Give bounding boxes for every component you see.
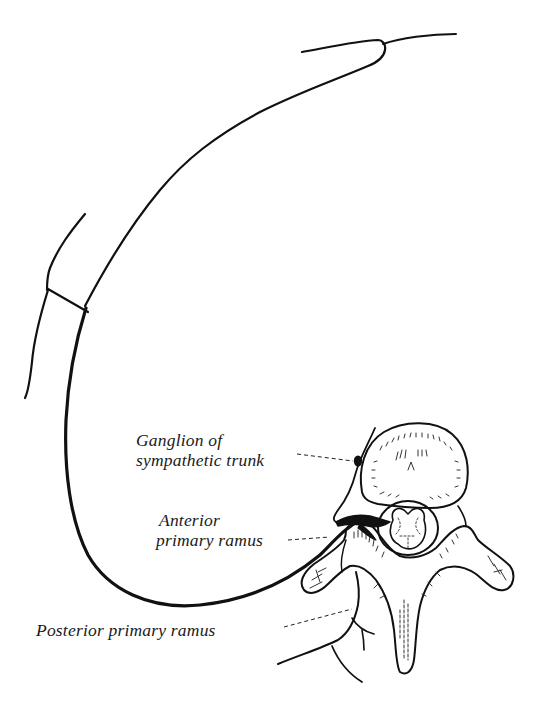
vertebral-body <box>361 423 468 508</box>
vertebral-body-hatching <box>372 433 460 499</box>
upper-right-line <box>383 34 456 44</box>
anatomy-figure: Ganglion of sympathetic trunk Anterior p… <box>0 0 542 703</box>
posterior-ramus-branch-3 <box>362 630 364 650</box>
label-posterior-line1: Posterior primary ramus <box>36 620 216 640</box>
leader-posterior <box>284 609 352 627</box>
spinal-nerve-root <box>336 515 390 527</box>
posterior-ramus-branch-1 <box>332 646 362 682</box>
leader-ganglion <box>297 454 353 461</box>
spinal-cord-grey-matter <box>396 518 420 548</box>
posterior-ramus-dorsal-branch <box>341 540 346 572</box>
upper-body-wall-outline <box>85 40 385 306</box>
label-posterior-primary-ramus: Posterior primary ramus <box>36 620 216 640</box>
sympathetic-trunk-line <box>334 428 375 522</box>
intercostal-connector <box>48 289 88 312</box>
label-anterior-primary-ramus: Anterior primary ramus <box>156 510 263 550</box>
label-anterior-line1: Anterior <box>156 510 263 530</box>
left-upper-segment <box>47 214 85 290</box>
left-outer-wall <box>25 290 48 398</box>
label-ganglion-line2: sympathetic trunk <box>136 450 264 470</box>
spinal-nerve-diagram <box>0 0 542 703</box>
label-anterior-line2: primary ramus <box>156 530 263 550</box>
label-ganglion-of-sympathetic-trunk: Ganglion of sympathetic trunk <box>136 430 264 470</box>
costal-facet-right <box>458 506 466 526</box>
label-ganglion-line1: Ganglion of <box>136 430 264 450</box>
leader-anterior <box>288 537 330 540</box>
sympathetic-ganglion <box>354 456 362 467</box>
